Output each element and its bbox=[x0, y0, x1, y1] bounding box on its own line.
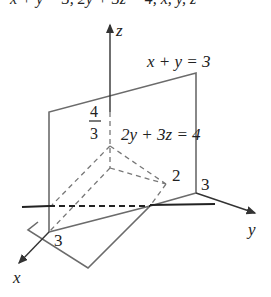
fraction-denominator: 3 bbox=[90, 125, 98, 142]
partial-header-text: x + y = 3, 2y + 3z = 4, x, y, z bbox=[9, 0, 197, 8]
plane2-equation-label: 2y + 3z = 4 bbox=[121, 125, 201, 144]
fraction-numerator: 4 bbox=[90, 103, 98, 120]
plane1-equation-label: x + y = 3 bbox=[146, 52, 211, 71]
y-axis-label: y bbox=[246, 220, 256, 239]
intersection-line-left bbox=[22, 206, 49, 207]
x-axis-label: x bbox=[12, 268, 21, 287]
x-axis bbox=[19, 232, 49, 263]
y-axis bbox=[196, 193, 255, 213]
3d-planes-diagram: x + y = 3, 2y + 3z = 4, x, y, z z y x x … bbox=[0, 0, 271, 297]
y-intercept-2-label: 2 bbox=[172, 166, 181, 185]
y-intercept-3-label: 3 bbox=[201, 175, 210, 194]
z-intercept-fraction: 4 3 bbox=[89, 103, 101, 142]
intersection-line-right bbox=[150, 204, 215, 205]
z-axis-label: z bbox=[115, 21, 123, 40]
x-intercept-3-label: 3 bbox=[54, 231, 63, 250]
